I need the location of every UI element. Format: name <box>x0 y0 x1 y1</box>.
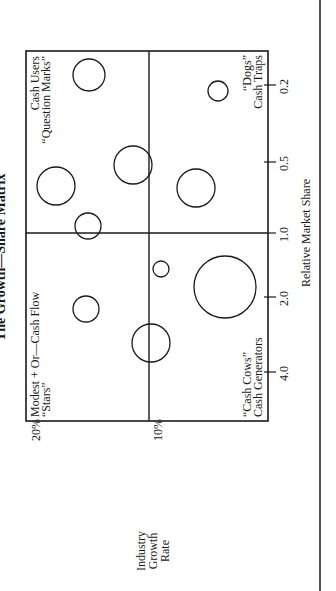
bubble <box>73 59 105 91</box>
bubble <box>153 261 169 277</box>
bubbles <box>37 59 256 362</box>
bubble <box>177 169 215 207</box>
x-tick-2: 2.0 <box>278 291 290 306</box>
growth-share-matrix-page: The Growth—Share Matrix 20% 10% Industry… <box>0 0 336 591</box>
bubble <box>114 146 152 184</box>
y-axis-label-line: Rate <box>159 531 171 571</box>
question-marks-label-line2: “Question Marks” <box>41 56 52 148</box>
y-tick-10: 10% <box>152 419 164 441</box>
bubble <box>37 167 75 205</box>
dogs-label: “Dogs” Cash Traps <box>242 55 264 121</box>
x-axis-ticks <box>264 85 276 372</box>
bubble <box>73 296 99 322</box>
y-tick-20: 20% <box>30 419 42 441</box>
bubble <box>75 213 101 239</box>
stars-label-line2: “Stars” <box>41 292 52 417</box>
bubble <box>194 256 256 318</box>
x-axis-label: Relative Market Share <box>300 179 312 287</box>
bubble <box>132 324 170 362</box>
question-marks-label: Cash Users “Question Marks” <box>30 56 52 148</box>
matrix-box <box>26 51 268 421</box>
x-tick-4: 4.0 <box>278 366 290 381</box>
bubble <box>208 81 228 101</box>
x-tick-02: 0.2 <box>278 79 290 94</box>
x-tick-05: 0.5 <box>278 156 290 171</box>
cash-cows-label: “Cash Cows” Cash Generators <box>242 337 264 417</box>
page-title: The Growth—Share Matrix <box>0 174 8 341</box>
stars-label: Modest + Or—Cash Flow “Stars” <box>30 292 52 417</box>
dogs-label-line2: Cash Traps <box>253 55 264 121</box>
cash-cows-label-line2: Cash Generators <box>253 337 264 417</box>
x-tick-1: 1.0 <box>278 227 290 242</box>
y-axis-label: Industry Growth Rate <box>135 531 171 571</box>
